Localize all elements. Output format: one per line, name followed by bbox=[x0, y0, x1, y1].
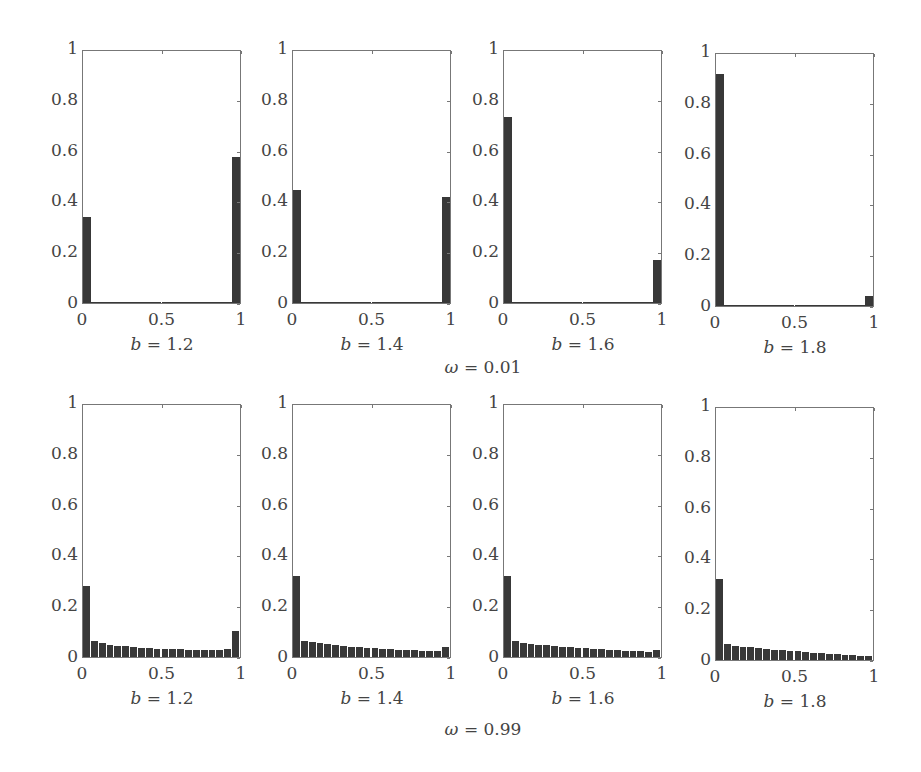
y-tick-mark bbox=[237, 152, 240, 153]
y-tick-mark bbox=[658, 202, 661, 203]
y-tick-mark bbox=[870, 509, 873, 510]
x-tick-label: 0 bbox=[272, 310, 312, 328]
histogram-bar bbox=[614, 302, 622, 303]
histogram-bar bbox=[535, 302, 543, 303]
histogram-bar bbox=[653, 260, 661, 303]
y-tick-mark bbox=[447, 404, 450, 405]
panel-title: b = 1.6 bbox=[503, 334, 663, 354]
histogram-bar bbox=[724, 305, 732, 306]
histogram-bar bbox=[356, 302, 364, 303]
plot-axes bbox=[292, 50, 451, 304]
x-tick-mark bbox=[451, 51, 452, 54]
y-tick-mark bbox=[237, 202, 240, 203]
x-tick-label: 0.5 bbox=[352, 664, 392, 682]
histogram-bar bbox=[795, 651, 802, 660]
histogram-bar bbox=[232, 157, 240, 303]
histogram-bar bbox=[567, 647, 574, 657]
histogram-bar bbox=[716, 74, 724, 306]
panel-title: b = 1.6 bbox=[503, 688, 663, 708]
y-tick-label: 0.8 bbox=[248, 444, 288, 462]
y-tick-label: 0.6 bbox=[248, 141, 288, 159]
histogram-bar bbox=[442, 647, 449, 657]
y-tick-mark bbox=[447, 607, 450, 608]
histogram-bar bbox=[598, 302, 606, 303]
histogram-bar bbox=[169, 302, 177, 303]
y-tick-label: 1 bbox=[38, 39, 78, 57]
histogram-bar bbox=[364, 302, 372, 303]
histogram-bar bbox=[122, 646, 129, 657]
histogram-bar bbox=[209, 650, 216, 657]
histogram-bar bbox=[543, 302, 551, 303]
histogram-bar bbox=[224, 302, 232, 303]
x-tick-label: 0 bbox=[272, 664, 312, 682]
histogram-bar bbox=[637, 302, 645, 303]
histogram-bar bbox=[317, 643, 324, 657]
x-tick-label: 0 bbox=[483, 310, 523, 328]
histogram-bar bbox=[193, 650, 200, 657]
histogram-bar bbox=[372, 648, 379, 657]
histogram-bar bbox=[340, 302, 348, 303]
y-tick-mark bbox=[870, 205, 873, 206]
x-tick-mark bbox=[241, 405, 242, 408]
y-tick-mark bbox=[870, 104, 873, 105]
y-tick-label: 0 bbox=[38, 293, 78, 311]
x-tick-mark bbox=[82, 405, 83, 408]
histogram-bar bbox=[232, 631, 239, 657]
histogram-bar bbox=[849, 655, 856, 660]
x-tick-label: 0.5 bbox=[142, 310, 182, 328]
histogram-bar bbox=[740, 647, 747, 660]
histogram-bar bbox=[802, 652, 809, 660]
histogram-bar bbox=[810, 305, 818, 306]
y-tick-label: 0 bbox=[459, 647, 499, 665]
histogram-bar bbox=[185, 302, 193, 303]
x-tick-label: 0 bbox=[62, 310, 102, 328]
histogram-bar bbox=[732, 305, 740, 306]
y-tick-mark bbox=[237, 304, 240, 305]
histogram-bar bbox=[293, 190, 301, 303]
y-tick-label: 0.6 bbox=[671, 144, 711, 162]
histogram-bar bbox=[154, 302, 162, 303]
histogram-bar bbox=[177, 302, 185, 303]
histogram-bar bbox=[201, 302, 209, 303]
y-tick-mark bbox=[658, 101, 661, 102]
histogram-bar bbox=[630, 651, 637, 657]
y-tick-mark bbox=[870, 53, 873, 54]
histogram-bar bbox=[209, 302, 217, 303]
y-tick-label: 0 bbox=[248, 293, 288, 311]
x-tick-label: 1 bbox=[854, 667, 894, 685]
y-tick-mark bbox=[447, 101, 450, 102]
x-tick-label: 1 bbox=[854, 313, 894, 331]
y-tick-label: 0.2 bbox=[671, 599, 711, 617]
y-tick-mark bbox=[447, 658, 450, 659]
y-tick-label: 0.6 bbox=[248, 495, 288, 513]
histogram-bar bbox=[193, 302, 201, 303]
histogram-bar bbox=[551, 646, 558, 657]
histogram-bar bbox=[419, 302, 427, 303]
histogram-bar bbox=[185, 650, 192, 657]
y-tick-label: 0 bbox=[248, 647, 288, 665]
plot-axes bbox=[82, 50, 241, 304]
y-tick-label: 0.8 bbox=[38, 444, 78, 462]
histogram-bar bbox=[535, 645, 542, 657]
y-tick-label: 1 bbox=[459, 393, 499, 411]
y-tick-label: 1 bbox=[671, 396, 711, 414]
panel-title: b = 1.4 bbox=[292, 334, 452, 354]
histogram-bar bbox=[716, 579, 723, 660]
plot-axes bbox=[503, 404, 662, 658]
histogram-bar bbox=[810, 653, 817, 660]
y-tick-label: 1 bbox=[248, 393, 288, 411]
histogram-bar bbox=[795, 305, 803, 306]
histogram-bar bbox=[645, 652, 652, 657]
histogram-bar bbox=[771, 650, 778, 660]
y-tick-mark bbox=[237, 607, 240, 608]
histogram-bar bbox=[403, 302, 411, 303]
histogram-bar bbox=[787, 305, 795, 306]
histogram-bar bbox=[763, 649, 770, 660]
plot-axes bbox=[82, 404, 241, 658]
histogram-bar bbox=[146, 648, 153, 657]
y-tick-label: 0.4 bbox=[248, 545, 288, 563]
x-tick-mark bbox=[162, 51, 163, 54]
histogram-bar bbox=[637, 651, 644, 657]
y-tick-mark bbox=[237, 506, 240, 507]
y-tick-label: 0.2 bbox=[459, 242, 499, 260]
